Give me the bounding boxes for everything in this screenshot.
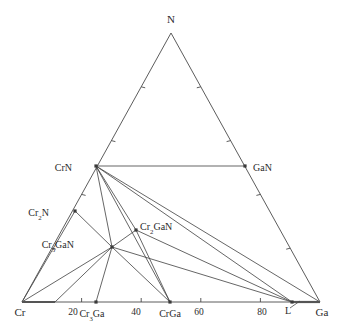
point-marker-CrGa[interactable]	[168, 300, 171, 303]
tick-label-60: 60	[194, 307, 204, 317]
tie-line-Cr3GaN-Cr-tie	[55, 247, 112, 302]
label-Cr2GaN: Cr2GaN	[140, 221, 172, 235]
right-tick-60	[227, 141, 231, 142]
tie-line-CrN-Ga	[96, 166, 320, 302]
tie-line-Cr2N-Cr	[22, 211, 75, 302]
point-marker-Cr2N[interactable]	[73, 209, 76, 212]
vertex-label-Ga: Ga	[316, 306, 329, 318]
tie-line-Cr3GaN-L	[112, 247, 292, 302]
tick-label-80: 80	[257, 307, 267, 317]
point-marker-Cr3Ga[interactable]	[94, 300, 97, 303]
tie-line-Cr3GaN-CrGa	[112, 247, 170, 302]
label-L: L	[285, 305, 291, 316]
point-marker-Cr3GaN[interactable]	[110, 245, 113, 248]
tie-line-Cr3GaN-Cr2GaN	[112, 230, 136, 247]
tie-lines-group	[22, 166, 320, 302]
left-tick-60	[111, 141, 115, 142]
tick-label-20: 20	[68, 307, 78, 317]
label-GaN: GaN	[253, 162, 272, 173]
ternary-diagram-canvas: CrNGaNCr2NCr3GaNCr2GaNCr3GaCrGaL 2040608…	[0, 0, 344, 333]
label-Cr3GaN: Cr3GaN	[42, 239, 74, 253]
tie-line-Cr2N-Cr3GaN	[75, 211, 112, 247]
tie-line-Cr2GaN-CrGa	[136, 230, 170, 302]
point-marker-L[interactable]	[290, 300, 293, 303]
compound-labels-group: CrNGaNCr2NCr3GaNCr2GaNCr3GaCrGaL	[28, 162, 291, 322]
label-Cr2N: Cr2N	[28, 207, 49, 221]
label-CrGa: CrGa	[159, 308, 181, 319]
ternary-phase-diagram: CrNGaNCr2NCr3GaNCr2GaNCr3GaCrGaL 2040608…	[0, 0, 344, 333]
tie-line-CrN-L	[96, 166, 292, 302]
right-tick-40	[256, 194, 260, 195]
tie-line-CrN-CrGa	[96, 166, 170, 302]
point-marker-CrN[interactable]	[94, 164, 97, 167]
tie-line-Cr2GaN-L	[136, 230, 292, 302]
label-Cr3Ga: Cr3Ga	[79, 308, 105, 322]
left-tick-80	[141, 87, 145, 88]
left-tick-40	[82, 194, 86, 195]
axis-tick-marks	[52, 87, 290, 302]
right-tick-80	[197, 87, 201, 88]
vertex-label-N: N	[167, 13, 175, 25]
point-marker-GaN[interactable]	[243, 164, 246, 167]
point-marker-Cr2GaN[interactable]	[134, 228, 137, 231]
label-CrN: CrN	[55, 162, 72, 173]
tick-label-40: 40	[131, 307, 141, 317]
right-tick-20	[286, 248, 290, 249]
vertex-label-Cr: Cr	[15, 306, 26, 318]
